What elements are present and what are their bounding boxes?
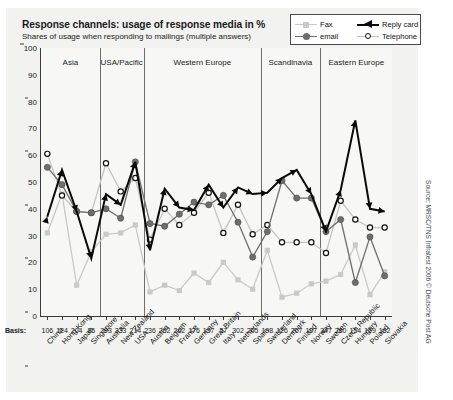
data-point-open-circle (103, 161, 108, 166)
data-point-square (221, 260, 226, 265)
data-point-circle (191, 199, 197, 205)
data-point-arrow (261, 189, 268, 196)
data-point-open-circle (323, 250, 328, 255)
data-point-open-circle (309, 240, 314, 245)
data-point-circle (352, 279, 358, 285)
data-point-open-circle (294, 240, 299, 245)
series-layer (0, 0, 453, 400)
data-point-circle (220, 192, 226, 198)
data-point-circle (250, 254, 256, 260)
data-point-open-circle (279, 240, 284, 245)
data-point-circle (338, 216, 344, 222)
data-point-square (206, 280, 211, 285)
series-line (47, 154, 384, 253)
data-point-square (250, 287, 255, 292)
data-point-open-circle (382, 225, 387, 230)
data-point-arrow (305, 187, 314, 196)
data-point-open-circle (221, 230, 226, 235)
data-point-square (191, 271, 196, 276)
data-point-square (279, 295, 284, 300)
data-point-arrow (246, 188, 254, 197)
data-point-square (162, 283, 167, 288)
data-point-open-circle (162, 206, 167, 211)
data-point-square (353, 242, 358, 247)
data-point-circle (176, 211, 182, 217)
data-point-circle (88, 210, 94, 216)
data-point-circle (264, 228, 270, 234)
data-point-open-circle (235, 202, 240, 207)
data-point-circle (235, 219, 241, 225)
series-fax (45, 191, 388, 299)
data-point-square (309, 281, 314, 286)
data-point-square (133, 222, 138, 227)
data-point-square (294, 291, 299, 296)
data-point-open-circle (206, 190, 211, 195)
data-point-square (74, 283, 79, 288)
data-point-square (235, 277, 240, 282)
data-point-circle (162, 223, 168, 229)
data-point-circle (206, 202, 212, 208)
data-point-circle (118, 215, 124, 221)
data-point-square (177, 288, 182, 293)
data-point-circle (382, 273, 388, 279)
data-point-open-circle (367, 225, 372, 230)
series-email (44, 159, 388, 286)
data-point-square (265, 248, 270, 253)
data-point-open-circle (45, 151, 50, 156)
data-point-square (45, 230, 50, 235)
data-point-circle (147, 220, 153, 226)
data-point-circle (367, 234, 373, 240)
data-point-square (147, 289, 152, 294)
data-point-circle (59, 182, 65, 188)
data-point-circle (294, 195, 300, 201)
data-point-circle (44, 164, 50, 170)
data-point-square (338, 272, 343, 277)
chart-root: Response channels: usage of response med… (0, 0, 453, 400)
data-point-square (367, 292, 372, 297)
data-point-square (323, 279, 328, 284)
data-point-square (118, 230, 123, 235)
series-reply-card (42, 120, 385, 260)
data-point-open-circle (338, 198, 343, 203)
data-point-open-circle (118, 189, 123, 194)
data-point-open-circle (177, 222, 182, 227)
data-point-open-circle (250, 232, 255, 237)
data-point-open-circle (59, 193, 64, 198)
data-point-square (103, 232, 108, 237)
data-point-arrow (42, 216, 50, 224)
data-point-open-circle (353, 217, 358, 222)
